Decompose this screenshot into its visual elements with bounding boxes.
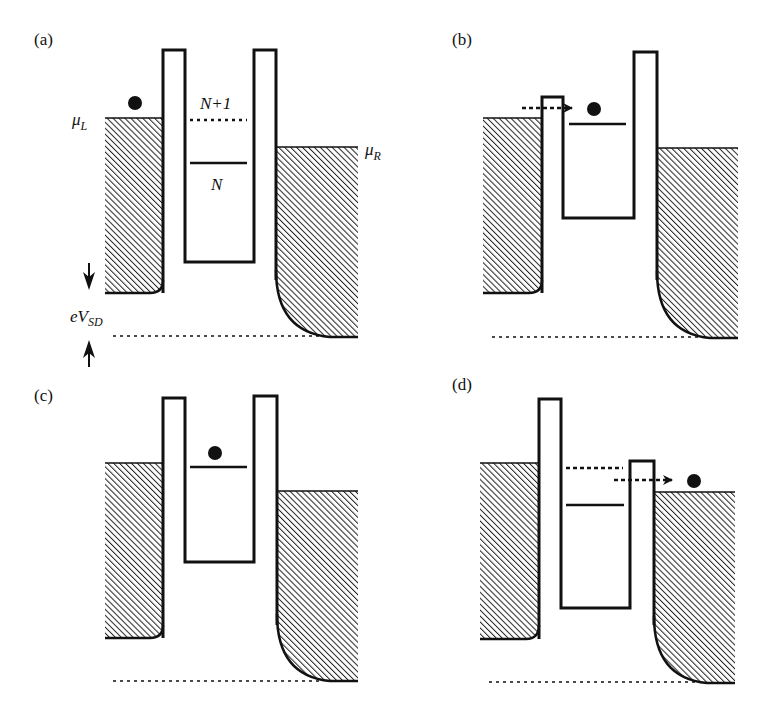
left-lead-fermi-sea	[105, 118, 163, 293]
panel-label-c: (c)	[34, 386, 53, 405]
electron-icon	[587, 102, 601, 116]
bias-arrow-down-icon	[83, 263, 95, 290]
electron-icon	[687, 474, 701, 488]
left-lead-fermi-sea	[480, 463, 539, 639]
right-lead-fermi-sea	[654, 492, 735, 683]
dot-potential-profile	[539, 399, 654, 639]
label-n-plus-1: N+1	[199, 94, 231, 113]
panel-label-a: (a)	[34, 30, 53, 49]
dot-potential-profile	[542, 52, 657, 293]
mu-l-label: μL	[71, 110, 88, 133]
mu-r-label: μR	[364, 140, 382, 163]
bias-arrow-up-icon	[83, 340, 95, 367]
panel-label-d: (d)	[452, 375, 472, 394]
panel-d: (d)	[452, 375, 735, 683]
dot-potential-profile	[163, 50, 276, 293]
label-n: N	[210, 175, 224, 194]
panel-label-b: (b)	[452, 30, 472, 49]
bias-label: eVSD	[70, 307, 103, 329]
right-lead-fermi-sea	[277, 491, 358, 681]
electron-icon	[208, 446, 222, 460]
dot-potential-profile	[163, 396, 277, 638]
panel-c: (c)	[34, 386, 358, 681]
right-lead-fermi-sea	[276, 147, 358, 337]
panel-a: (a) N+1 N μL μR eVSD	[34, 30, 382, 367]
panel-b: (b)	[452, 30, 738, 338]
coulomb-blockade-diagram: (a) N+1 N μL μR eVSD	[0, 0, 775, 714]
electron-icon	[128, 96, 142, 110]
left-lead-fermi-sea	[105, 463, 163, 638]
right-lead-fermi-sea	[657, 148, 738, 338]
left-lead-fermi-sea	[483, 118, 542, 293]
